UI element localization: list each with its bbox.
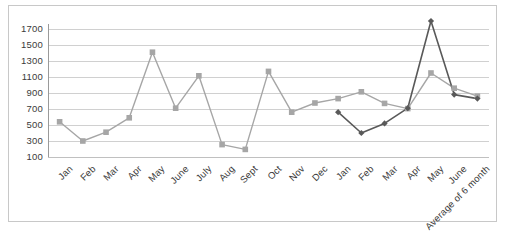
y-axis-tick-label: 1300 <box>9 55 43 66</box>
axis-lines <box>48 24 489 157</box>
series-lines <box>60 21 478 149</box>
y-axis-tick-label: 100 <box>9 151 43 162</box>
y-axis-tick-label: 1500 <box>9 39 43 50</box>
series-markers <box>57 18 481 152</box>
gridlines <box>48 29 489 157</box>
y-axis-tick-label: 900 <box>9 87 43 98</box>
y-axis-tick-label: 1700 <box>9 23 43 34</box>
y-axis-tick-label: 700 <box>9 103 43 114</box>
y-axis-tick-label: 500 <box>9 119 43 130</box>
y-axis-tick-label: 300 <box>9 135 43 146</box>
chart-frame: 1003005007009001100130015001700 JanFebMa… <box>8 5 497 222</box>
y-axis-tick-label: 1100 <box>9 71 43 82</box>
